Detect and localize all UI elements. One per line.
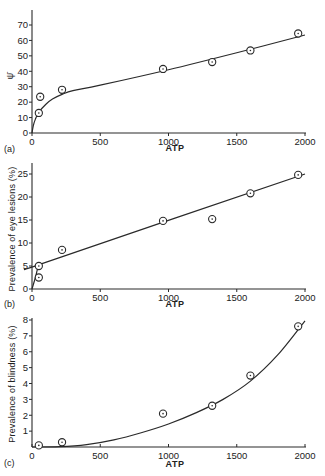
figure: 0500100015002000010203040506070 ATP (a) … — [0, 0, 325, 476]
panel-a-fitted-curve — [32, 35, 305, 133]
data-point-center-dot — [162, 413, 164, 415]
fitted-curve-line — [24, 174, 305, 289]
y-tick-label: 70 — [17, 19, 28, 30]
x-tick-label: 2000 — [294, 292, 315, 303]
panel-c-label: (c) — [4, 458, 15, 468]
x-tick-label: 1500 — [226, 136, 247, 147]
y-tick-label: 10 — [17, 112, 28, 123]
y-tick-label: 20 — [17, 96, 28, 107]
panel-a-axes: 0500100015002000010203040506070 — [17, 10, 315, 147]
y-tick-label: 1 — [23, 425, 28, 436]
y-tick-label: 6 — [23, 346, 28, 357]
y-tick-label: 5 — [23, 362, 28, 373]
data-point-center-dot — [39, 96, 41, 98]
x-tick-label: 1500 — [226, 292, 247, 303]
x-tick-label: 1500 — [226, 450, 247, 461]
fitted-curve-line — [32, 35, 305, 133]
panel-c-chart: 050010001500200012345678 ATP (c) Prevale… — [4, 314, 316, 469]
y-tick-label: 20 — [17, 191, 28, 202]
data-point-center-dot — [38, 445, 40, 447]
y-tick-label: 30 — [17, 81, 28, 92]
y-tick-label: 3 — [23, 394, 28, 405]
data-point-center-dot — [38, 112, 40, 114]
panel-b-fitted-curve — [24, 174, 305, 289]
panel-b-xlabel: ATP — [166, 299, 185, 309]
data-point-center-dot — [162, 68, 164, 70]
panel-b-ylabel: Prevalence of eye lesions (%) — [7, 167, 17, 292]
y-tick-label: 10 — [17, 237, 28, 248]
panel-c-fitted-curve — [32, 321, 305, 447]
panel-c-ylabel: Prevalence of blindness (%) — [7, 325, 17, 442]
data-point-center-dot — [61, 89, 63, 91]
data-point-center-dot — [250, 193, 252, 195]
panel-b-axes: 05001000150020000510152025 — [17, 163, 315, 303]
panel-c-data-points — [35, 323, 302, 449]
y-tick-label: 0 — [23, 127, 28, 138]
y-tick-label: 50 — [17, 50, 28, 61]
data-point-center-dot — [297, 326, 299, 328]
x-tick-label: 0 — [29, 136, 34, 147]
data-point-center-dot — [38, 265, 40, 267]
y-tick-label: 15 — [17, 214, 28, 225]
data-point-center-dot — [297, 174, 299, 176]
y-tick-label: 25 — [17, 168, 28, 179]
panel-a-data-points — [35, 30, 302, 117]
panel-b-label: (b) — [4, 299, 15, 309]
data-point-center-dot — [250, 50, 252, 52]
y-tick-label: 40 — [17, 66, 28, 77]
panel-a-label: (a) — [4, 144, 15, 154]
panel-b-chart: 05001000150020000510152025 ATP (b) Preva… — [4, 163, 316, 309]
x-tick-label: 2000 — [294, 136, 315, 147]
panel-a-chart: 0500100015002000010203040506070 ATP (a) … — [4, 10, 316, 154]
x-tick-label: 500 — [92, 136, 108, 147]
panel-b-data-points — [35, 171, 302, 281]
panel-a-ylabel: ψ̄ — [5, 71, 15, 79]
data-point-center-dot — [297, 33, 299, 35]
x-tick-label: 0 — [29, 292, 34, 303]
fitted-curve-line — [32, 321, 305, 447]
data-point-center-dot — [38, 277, 40, 279]
panel-a-xlabel: ATP — [166, 143, 185, 153]
panel-c-xlabel: ATP — [166, 459, 185, 469]
x-tick-label: 500 — [92, 292, 108, 303]
y-tick-label: 0 — [23, 283, 28, 294]
data-point-center-dot — [211, 218, 213, 220]
y-tick-label: 2 — [23, 410, 28, 421]
x-tick-label: 500 — [92, 450, 108, 461]
data-point-center-dot — [162, 220, 164, 222]
y-tick-label: 8 — [23, 314, 28, 325]
y-tick-label: 7 — [23, 330, 28, 341]
data-point-center-dot — [61, 249, 63, 251]
x-tick-label: 2000 — [294, 450, 315, 461]
chart-figure: 0500100015002000010203040506070 ATP (a) … — [0, 0, 325, 476]
x-tick-label: 0 — [29, 450, 34, 461]
y-tick-label: 4 — [23, 378, 28, 389]
data-point-center-dot — [61, 441, 63, 443]
data-point-center-dot — [211, 61, 213, 63]
panel-c-axes: 050010001500200012345678 — [23, 314, 316, 461]
y-tick-label: 60 — [17, 35, 28, 46]
data-point-center-dot — [211, 405, 213, 407]
data-point-center-dot — [250, 375, 252, 377]
